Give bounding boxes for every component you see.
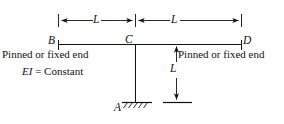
support-hatching	[124, 103, 148, 109]
annotation-stiffness-note: EI = Constant	[22, 66, 83, 77]
node-label-d: D	[243, 35, 251, 47]
dimension-label-column-height: L	[170, 63, 176, 75]
node-label-a: A	[114, 102, 121, 114]
node-label-c: C	[125, 34, 133, 46]
frame-drawing	[0, 0, 284, 124]
figure-canvas: L L L B C D A Pinned or fixed end Pinned…	[0, 0, 284, 124]
annotation-right-end-condition: Pinned or fixed end	[178, 49, 264, 60]
dimension-label-right-span: L	[171, 14, 177, 26]
stiffness-symbol: EI	[22, 65, 32, 77]
stiffness-note-rest: = Constant	[32, 65, 83, 77]
dimension-label-left-span: L	[93, 14, 99, 26]
node-label-b: B	[48, 35, 55, 47]
annotation-left-end-condition: Pinned or fixed end	[2, 49, 88, 60]
